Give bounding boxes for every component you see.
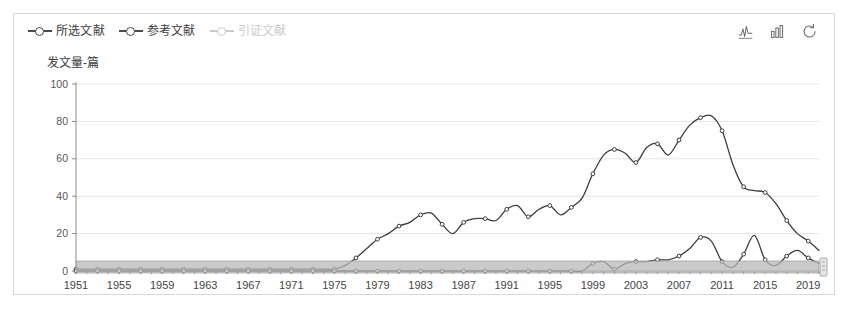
svg-text:1967: 1967 [236, 279, 260, 291]
svg-text:1991: 1991 [494, 279, 518, 291]
svg-text:40: 40 [56, 190, 68, 202]
svg-text:20: 20 [56, 227, 68, 239]
chart-plot-area[interactable]: 020406080100 195119551959196319671971197… [14, 14, 834, 294]
svg-text:2011: 2011 [710, 279, 734, 291]
svg-text:1979: 1979 [365, 279, 389, 291]
chart-widget: 所选文献 参考文献 引证文献 发文量-篇 02040 [13, 13, 835, 295]
svg-text:0: 0 [62, 265, 68, 277]
svg-text:1971: 1971 [279, 279, 303, 291]
svg-text:100: 100 [50, 78, 68, 90]
series-line-0 [76, 115, 819, 269]
y-axis: 020406080100 [50, 78, 76, 277]
svg-text:1959: 1959 [150, 279, 174, 291]
data-zoom-slider[interactable] [76, 258, 827, 276]
svg-text:80: 80 [56, 115, 68, 127]
svg-text:2007: 2007 [667, 279, 691, 291]
svg-text:60: 60 [56, 152, 68, 164]
svg-text:1995: 1995 [538, 279, 562, 291]
svg-text:1975: 1975 [322, 279, 346, 291]
svg-text:1999: 1999 [581, 279, 605, 291]
svg-text:2015: 2015 [753, 279, 777, 291]
svg-text:1963: 1963 [193, 279, 217, 291]
svg-text:1987: 1987 [451, 279, 475, 291]
chart-svg: 020406080100 195119551959196319671971197… [14, 14, 834, 294]
x-axis: 1951195519591963196719711975197919831987… [64, 271, 821, 291]
series-lines [74, 115, 819, 273]
svg-text:2019: 2019 [796, 279, 820, 291]
svg-text:1951: 1951 [64, 279, 88, 291]
svg-text:1983: 1983 [408, 279, 432, 291]
svg-text:2003: 2003 [624, 279, 648, 291]
grid-lines [76, 84, 819, 271]
svg-text:1955: 1955 [107, 279, 131, 291]
